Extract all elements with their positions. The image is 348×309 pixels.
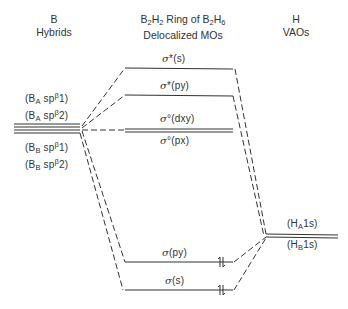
header-h-line1: H xyxy=(276,13,316,26)
label-bb-sp2: (BB spβ2) xyxy=(25,157,68,172)
label-hb-1s: (HB1s) xyxy=(287,239,318,252)
header-center-line1: B2H2 Ring of B2H6 xyxy=(128,13,238,29)
label-sigma-star-py: σ*(py) xyxy=(160,80,189,91)
electron-pairs xyxy=(218,257,225,295)
label-sigma-zero-px: σ°(px) xyxy=(160,135,189,146)
header-b-line1: B xyxy=(28,13,80,26)
label-sigma-zero-dxy: σ°(dxy) xyxy=(160,113,194,124)
label-ba-sp1: (BA spβ1) xyxy=(25,91,68,106)
label-bb-sp1: (BB spβ1) xyxy=(25,140,68,155)
header-delocalized-mos: B2H2 Ring of B2H6 Delocalized MOs xyxy=(128,13,238,42)
header-h-vaos: H VAOs xyxy=(276,13,316,39)
label-sigma-s: σ(s) xyxy=(165,275,184,286)
b-hybrid-levels xyxy=(14,124,80,133)
header-center-line2: Delocalized MOs xyxy=(128,29,238,42)
label-sigma-py: σ(py) xyxy=(162,247,187,258)
label-ba-sp2: (BA spβ2) xyxy=(25,108,68,123)
label-sigma-star-s: σ*(s) xyxy=(162,53,185,64)
header-b-hybrids: B Hybrids xyxy=(28,13,80,39)
header-h-line2: VAOs xyxy=(276,26,316,39)
h-vao-levels xyxy=(266,234,338,238)
header-b-line2: Hybrids xyxy=(28,26,80,39)
label-ha-1s: (HA1s) xyxy=(287,218,318,231)
